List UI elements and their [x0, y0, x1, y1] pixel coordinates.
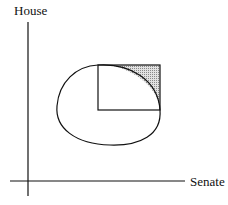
x-axis-label: Senate — [190, 175, 225, 188]
diagram-canvas: House Senate — [0, 0, 228, 205]
y-axis-label: House — [14, 4, 47, 17]
